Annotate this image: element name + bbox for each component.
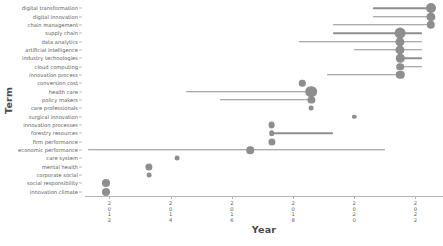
burst-segment bbox=[327, 74, 400, 75]
y-axis-tick-labels: digital transformationdigital innovation… bbox=[16, 0, 82, 196]
y-tick-mark bbox=[79, 108, 82, 109]
y-tick-label-digital-transformation: digital transformation bbox=[22, 4, 78, 12]
burst-segment bbox=[354, 49, 421, 50]
y-tick-mark bbox=[79, 100, 82, 101]
y-tick-mark bbox=[79, 33, 82, 34]
burst-segment bbox=[373, 16, 431, 17]
data-point bbox=[396, 71, 404, 79]
y-tick-label-chain-management: chain management bbox=[28, 21, 78, 29]
y-tick-label-cloud-computing: cloud computing bbox=[35, 63, 78, 71]
y-axis-title-label: Term bbox=[4, 86, 15, 113]
y-tick-mark bbox=[79, 183, 82, 184]
data-point bbox=[269, 131, 275, 137]
y-tick-mark bbox=[79, 191, 82, 192]
x-axis-line bbox=[85, 196, 443, 197]
burst-segment bbox=[220, 99, 312, 100]
x-tick-label-2020: 2020 bbox=[350, 201, 358, 223]
y-tick-mark bbox=[79, 91, 82, 92]
data-point bbox=[309, 106, 314, 111]
y-tick-label-industry-technologies: industry technologies bbox=[22, 54, 78, 62]
x-tick-mark bbox=[171, 196, 172, 199]
y-tick-label-conversion-cost: conversion cost bbox=[37, 79, 78, 87]
burst-segment bbox=[373, 7, 431, 8]
x-tick-mark bbox=[109, 196, 110, 199]
timeline-lollipop-chart: Term digital transformationdigital innov… bbox=[0, 0, 443, 246]
y-tick-mark bbox=[79, 150, 82, 151]
y-tick-label-mental-health: mental health bbox=[42, 163, 78, 171]
y-tick-label-innovation-processes: innovation processes bbox=[23, 121, 78, 129]
y-tick-label-surgical-innovation: surgical innovation bbox=[29, 113, 78, 121]
y-tick-label-social-responsibility: social responsibility bbox=[27, 179, 78, 187]
y-tick-mark bbox=[79, 158, 82, 159]
data-point bbox=[299, 80, 305, 86]
burst-segment bbox=[88, 149, 385, 150]
y-tick-mark bbox=[79, 133, 82, 134]
y-tick-label-firm-performance: firm performance bbox=[33, 138, 78, 146]
burst-segment bbox=[186, 91, 311, 92]
y-tick-mark bbox=[79, 41, 82, 42]
data-point bbox=[396, 63, 404, 71]
x-tick-label-2012: 2012 bbox=[105, 201, 113, 223]
x-tick-label-2022: 2022 bbox=[411, 201, 419, 223]
y-axis-title: Term bbox=[2, 0, 16, 200]
burst-segment bbox=[272, 133, 333, 134]
data-point bbox=[427, 21, 435, 29]
y-tick-mark bbox=[79, 24, 82, 25]
x-tick-label-2018: 2018 bbox=[289, 201, 297, 223]
x-tick-mark bbox=[415, 196, 416, 199]
plot-area bbox=[85, 4, 443, 196]
data-point bbox=[308, 96, 315, 103]
y-tick-mark bbox=[79, 74, 82, 75]
x-axis-title-label: Year bbox=[252, 224, 276, 235]
y-tick-label-economic-performance: economic performance bbox=[18, 146, 78, 154]
y-tick-label-innovation-process: innovation process bbox=[29, 71, 78, 79]
data-point bbox=[268, 138, 275, 145]
y-tick-label-care-professionals: care professionals bbox=[31, 104, 78, 112]
data-point bbox=[146, 163, 153, 170]
data-point bbox=[102, 179, 110, 187]
y-tick-label-digital-innovation: digital innovation bbox=[33, 13, 78, 21]
y-tick-mark bbox=[79, 83, 82, 84]
y-tick-label-innovation-climate: innovation climate bbox=[30, 188, 78, 196]
y-tick-mark bbox=[79, 66, 82, 67]
data-point bbox=[352, 114, 356, 118]
x-tick-mark bbox=[232, 196, 233, 199]
y-tick-label-health-care: health care bbox=[49, 88, 78, 96]
data-point bbox=[174, 156, 179, 161]
y-tick-mark bbox=[79, 58, 82, 59]
y-tick-label-forestry-resources: forestry resources bbox=[31, 129, 78, 137]
y-tick-mark bbox=[79, 8, 82, 9]
y-tick-mark bbox=[79, 16, 82, 17]
data-point bbox=[396, 54, 404, 62]
y-tick-mark bbox=[79, 125, 82, 126]
x-axis-title: Year bbox=[85, 224, 443, 235]
y-tick-mark bbox=[79, 166, 82, 167]
y-tick-label-supply-chain: supply chain bbox=[45, 29, 78, 37]
x-tick-label-2016: 2016 bbox=[228, 201, 236, 223]
y-tick-label-policy-makers: policy makers bbox=[42, 96, 78, 104]
data-point bbox=[268, 122, 275, 129]
y-tick-mark bbox=[79, 175, 82, 176]
y-tick-mark bbox=[79, 116, 82, 117]
y-tick-label-artificial-intelligence: artificial intelligence bbox=[25, 46, 78, 54]
burst-segment bbox=[333, 33, 422, 34]
data-point bbox=[147, 173, 152, 178]
x-tick-label-2014: 2014 bbox=[167, 201, 175, 223]
y-tick-label-care-system: care system bbox=[46, 154, 78, 162]
burst-segment bbox=[333, 24, 431, 25]
y-tick-mark bbox=[79, 141, 82, 142]
y-tick-label-data-analytics: data analytics bbox=[41, 38, 78, 46]
x-tick-mark bbox=[354, 196, 355, 199]
x-tick-mark bbox=[293, 196, 294, 199]
y-tick-label-corporate-social: corporate social bbox=[36, 171, 78, 179]
data-point bbox=[246, 146, 254, 154]
data-point bbox=[102, 188, 110, 196]
y-tick-mark bbox=[79, 49, 82, 50]
